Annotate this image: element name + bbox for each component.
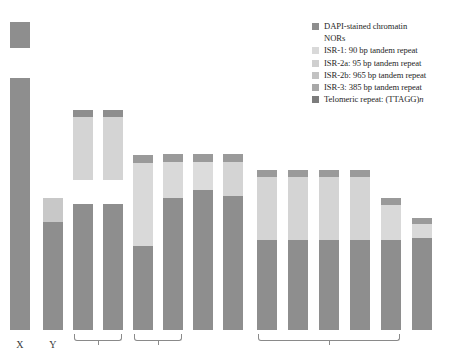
chromosome-8-telomere-cap [223,154,243,162]
chromosome-6-telomere-cap [163,154,183,162]
chromosome-13-isr-block [381,205,401,240]
legend-label-6: Telomeric repeat: (TTAGG)n [324,93,424,105]
chromosome-6-dapi-body [163,198,183,330]
bracket-pair-5-6 [134,334,182,341]
legend-swatch-icon-2 [312,47,319,54]
chromosome-8-isr-block [223,162,243,196]
legend-swatch-icon-6 [312,96,319,103]
legend-label-0: DAPI-stained chromatin [324,20,407,32]
chromosome-5-isr-block [133,163,153,246]
chromosome-X [10,22,30,330]
chromosome-11-isr-block [319,177,339,240]
chromosome-14-isr-block [412,224,432,238]
chromosome-5-telomere-cap [133,155,153,163]
chromosome-8-dapi-body [223,196,243,330]
legend-swatch-icon-1 [312,35,319,42]
chromosome-9-isr-block [257,177,277,240]
chromosome-4-dapi-body [103,204,123,330]
legend-item-5: ISR-3: 385 bp tandem repeat [312,81,464,93]
legend-item-1: NORs [312,32,464,44]
chromosome-X-nor-gap [10,48,30,78]
legend-swatch-icon-0 [312,23,319,30]
chromosome-3-dapi-body [73,204,93,330]
legend-swatch-icon-5 [312,84,319,91]
legend-item-3: ISR-2a: 95 bp tandem repeat [312,57,464,69]
chromosome-4-isr-block [103,117,123,180]
legend-label-2: ISR-1: 90 bp tandem repeat [324,44,418,56]
chromosome-10 [288,170,308,330]
legend-swatch-icon-4 [312,72,319,79]
chromosome-11-telomere-cap [319,170,339,177]
chromosome-6-isr-block [163,162,183,198]
chromosome-13 [381,198,401,330]
chromosome-3-telomere-cap [73,110,93,117]
chromosome-3 [73,110,93,330]
axis-label-y: Y [43,339,63,350]
legend-label-5: ISR-3: 385 bp tandem repeat [324,81,422,93]
legend-label-4: ISR-2b: 965 bp tandem repeat [324,69,426,81]
chromosome-9-telomere-cap [257,170,277,177]
chromosome-14 [412,218,432,330]
chromosome-3-isr-block [73,117,93,180]
chromosome-7 [193,154,213,330]
chromosome-11 [319,170,339,330]
chromosome-6 [163,154,183,330]
legend-item-6: Telomeric repeat: (TTAGG)n [312,93,464,105]
chromosome-12 [350,170,370,330]
chromosome-4-nor-gap [103,180,123,204]
legend-item-0: DAPI-stained chromatin [312,20,464,32]
legend-label-3: ISR-2a: 95 bp tandem repeat [324,57,421,69]
chromosome-14-dapi-body [412,238,432,330]
chromosome-Y-dapi-body [43,222,63,330]
bracket-pair-3-4-tick [98,340,99,345]
chromosome-7-dapi-body [193,190,213,330]
legend-label-1: NORs [324,32,345,44]
legend: DAPI-stained chromatinNORsISR-1: 90 bp t… [312,20,464,105]
bracket-pair-3-4 [74,334,122,341]
chromosome-X-dapi-body [10,78,30,330]
chromosome-X-isr-block [10,22,30,48]
legend-label-6-italic-suffix: n [419,94,423,104]
bracket-group-9-13-tick [329,340,330,345]
chromosome-8 [223,154,243,330]
bracket-pair-5-6-tick [158,340,159,345]
bracket-group-9-13 [258,334,400,341]
chromosome-10-isr-block [288,177,308,240]
legend-swatch-icon-3 [312,60,319,67]
chromosome-7-telomere-cap [193,154,213,162]
chromosome-10-dapi-body [288,240,308,330]
axis-label-x: X [10,339,30,350]
chromosome-13-telomere-cap [381,198,401,205]
chromosome-12-dapi-body [350,240,370,330]
chromosome-4 [103,110,123,330]
chromosome-Y-isr-cap [43,198,63,222]
chromosome-5 [133,155,153,330]
chromosome-4-telomere-cap [103,110,123,117]
chromosome-13-dapi-body [381,240,401,330]
legend-item-4: ISR-2b: 965 bp tandem repeat [312,69,464,81]
legend-item-2: ISR-1: 90 bp tandem repeat [312,44,464,56]
chromosome-Y [43,198,63,330]
chromosome-9 [257,170,277,330]
chromosome-12-telomere-cap [350,170,370,177]
chromosome-9-dapi-body [257,240,277,330]
chromosome-7-isr-block [193,162,213,190]
chromosome-10-telomere-cap [288,170,308,177]
chromosome-11-dapi-body [319,240,339,330]
chromosome-12-isr-block [350,177,370,240]
chromosome-5-dapi-body [133,246,153,330]
chromosome-ideogram-figure: XY DAPI-stained chromatinNORsISR-1: 90 b… [0,0,467,359]
chromosome-3-nor-gap [73,180,93,204]
